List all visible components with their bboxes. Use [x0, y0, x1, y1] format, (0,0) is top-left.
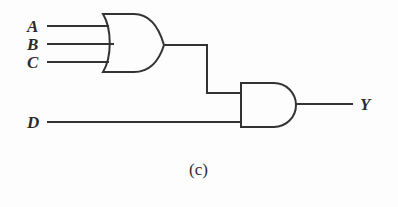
- input-label-c: C: [27, 54, 38, 71]
- figure-caption: (c): [189, 161, 208, 178]
- input-label-a: A: [27, 18, 38, 35]
- input-label-d: D: [27, 114, 39, 131]
- figure-canvas: A B C D Y (c): [0, 0, 398, 207]
- output-label-y: Y: [360, 96, 370, 113]
- wire-or-to-and: [164, 45, 241, 93]
- and-gate: [241, 83, 296, 127]
- input-label-b: B: [27, 36, 38, 53]
